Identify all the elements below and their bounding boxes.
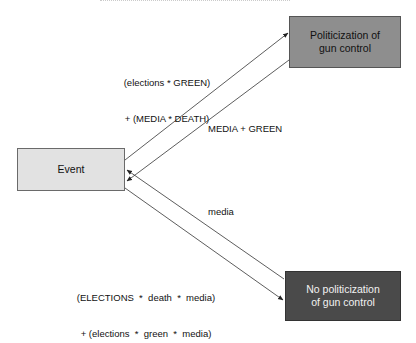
edge-label-line2: + (elections * green * media) <box>63 328 229 340</box>
edge-label-event-to-politicization: (elections * GREEN) + (MEDIA * DEATH) <box>112 53 222 137</box>
edge-label-event-to-nopoliticization: (ELECTIONS * death * media) + (elections… <box>63 268 229 343</box>
node-no-politicization: No politicization of gun control <box>285 271 401 321</box>
node-politicization-label-line1: Politicization of <box>310 29 380 42</box>
edge-nopoliticization-to-event <box>127 170 284 279</box>
node-no-politicization-label-line2: of gun control <box>306 296 380 309</box>
node-event: Event <box>17 148 125 191</box>
edge-label-line2: + (MEDIA * DEATH) <box>112 113 222 125</box>
node-politicization-label-line2: gun control <box>310 42 380 55</box>
node-politicization: Politicization of gun control <box>289 16 401 68</box>
edge-label-line1: (ELECTIONS * death * media) <box>63 292 229 304</box>
edge-label-politicization-to-event: MEDIA + GREEN <box>208 123 282 135</box>
edge-label-line1: (elections * GREEN) <box>112 77 222 89</box>
node-no-politicization-label-line1: No politicization <box>306 283 380 296</box>
node-event-label: Event <box>58 163 85 176</box>
edge-label-nopoliticization-to-event: media <box>208 206 234 218</box>
